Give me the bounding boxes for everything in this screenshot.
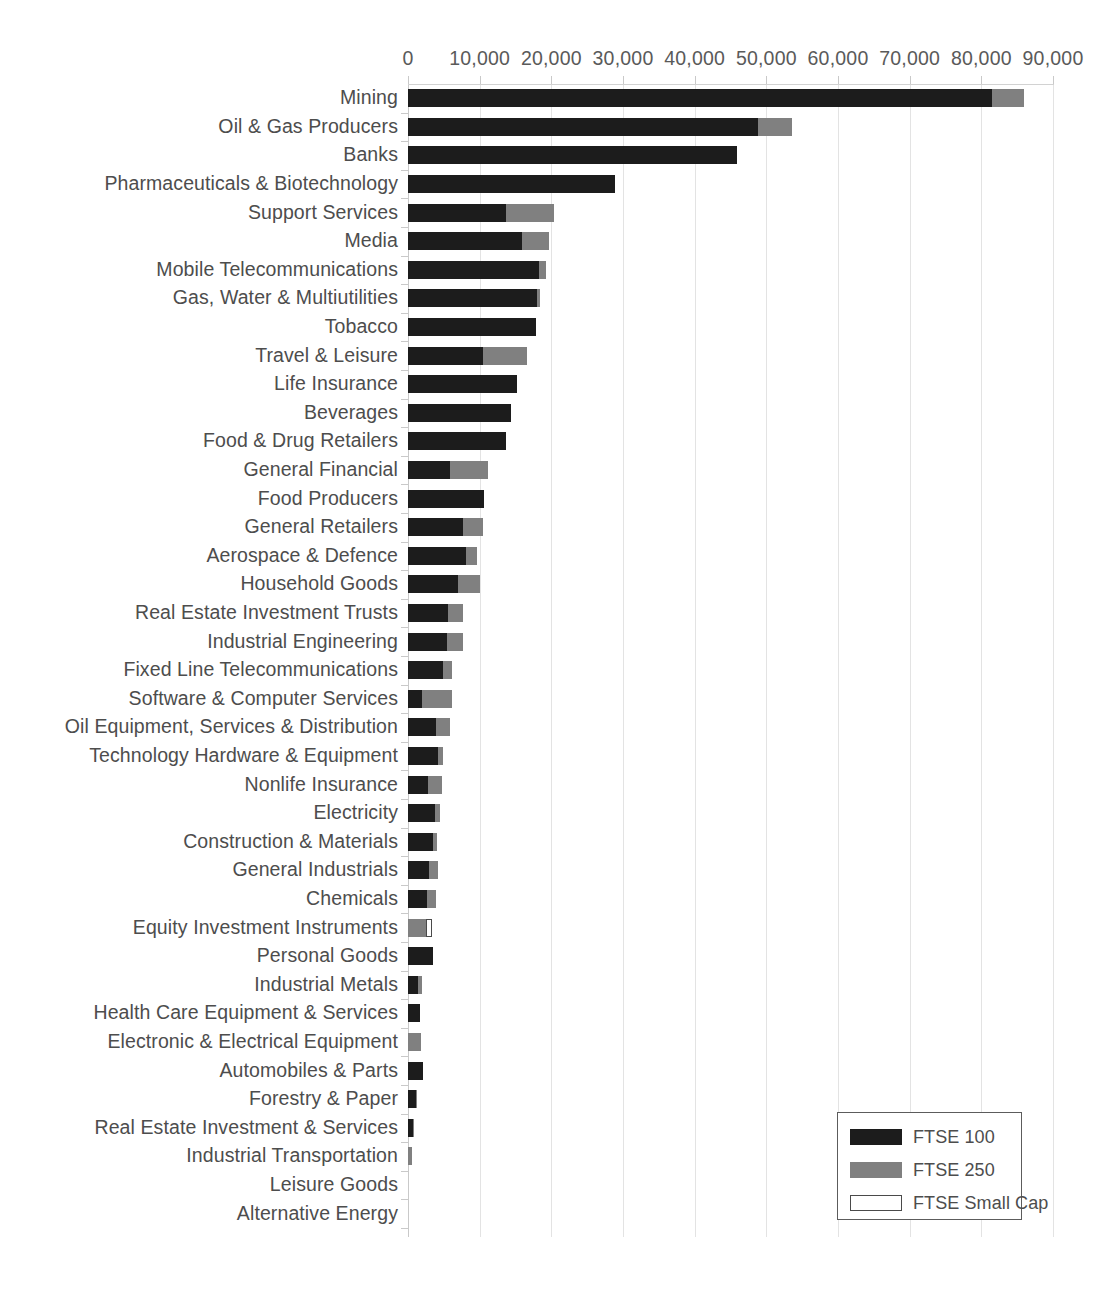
chart-row: Industrial Engineering	[0, 627, 1115, 656]
chart-row: Health Care Equipment & Services	[0, 999, 1115, 1028]
y-axis-category-label: Personal Goods	[257, 947, 398, 967]
y-axis-category-label: Food & Drug Retailers	[203, 432, 398, 452]
y-axis-category-label: Nonlife Insurance	[245, 775, 398, 795]
stacked-bar	[408, 947, 433, 965]
bar-segment-ftse-100	[408, 1090, 416, 1108]
bar-segment-ftse-250	[443, 661, 452, 679]
x-tick-mark	[766, 76, 767, 84]
bar-segment-ftse-100	[408, 547, 466, 565]
stacked-bar	[408, 175, 615, 193]
stacked-bar	[408, 232, 549, 250]
y-axis-category-label: Support Services	[248, 203, 398, 223]
stacked-bar	[408, 890, 436, 908]
bar-segment-ftse-250	[447, 633, 463, 651]
bar-segment-ftse-100	[408, 347, 483, 365]
bar-segment-ftse-100	[408, 261, 539, 279]
y-axis-category-label: Automobiles & Parts	[219, 1061, 398, 1081]
y-axis-category-label: General Financial	[243, 460, 398, 480]
y-axis-category-label: Construction & Materials	[183, 832, 398, 852]
bar-segment-ftse-250	[408, 1033, 421, 1051]
chart-row: General Retailers	[0, 513, 1115, 542]
stacked-bar	[408, 490, 484, 508]
chart-row: Aerospace & Defence	[0, 542, 1115, 571]
x-tick-mark	[981, 76, 982, 84]
stacked-bar	[408, 289, 540, 307]
stacked-bar	[408, 976, 422, 994]
bar-segment-ftse-100	[408, 861, 429, 879]
y-axis-category-label: Equity Investment Instruments	[133, 918, 398, 938]
stacked-bar	[408, 347, 527, 365]
bar-segment-ftse-250	[466, 547, 477, 565]
y-axis-category-label: Life Insurance	[274, 375, 398, 395]
chart-row: Chemicals	[0, 885, 1115, 914]
y-axis-category-label: Banks	[343, 146, 398, 166]
bar-segment-ftse-250	[435, 804, 440, 822]
stacked-bar	[408, 718, 450, 736]
y-axis-category-label: Industrial Transportation	[186, 1147, 398, 1167]
stacked-bar	[408, 461, 488, 479]
x-tick-mark	[838, 76, 839, 84]
chart-row: Electronic & Electrical Equipment	[0, 1028, 1115, 1057]
bar-segment-ftse-250	[433, 833, 437, 851]
chart-row: Electricity	[0, 799, 1115, 828]
legend-swatch-ftse-small-cap	[850, 1195, 902, 1211]
y-axis-category-label: Electricity	[313, 804, 398, 824]
legend-label: FTSE 100	[913, 1127, 995, 1148]
stacked-bar	[408, 1090, 417, 1108]
stacked-bar	[408, 1147, 412, 1165]
bar-segment-ftse-250	[758, 118, 792, 136]
bar-segment-ftse-100	[408, 404, 511, 422]
bar-segment-ftse-250	[448, 604, 463, 622]
x-axis-line	[408, 84, 1054, 85]
stacked-bar	[408, 833, 437, 851]
y-axis-category-label: Travel & Leisure	[255, 346, 398, 366]
bar-segment-ftse-250	[539, 261, 546, 279]
legend-item: FTSE Small Cap	[850, 1193, 1048, 1213]
chart-row: Tobacco	[0, 313, 1115, 342]
bar-segment-ftse-250	[416, 1090, 417, 1108]
bar-segment-ftse-250	[428, 776, 442, 794]
stacked-bar	[408, 776, 442, 794]
bar-segment-ftse-100	[408, 461, 450, 479]
stacked-bar	[408, 261, 546, 279]
stacked-bar	[408, 432, 506, 450]
bar-segment-ftse-250	[418, 976, 422, 994]
chart-row: Media	[0, 227, 1115, 256]
y-axis-category-label: Industrial Engineering	[207, 632, 398, 652]
bar-segment-ftse-250	[413, 1119, 414, 1137]
bar-segment-ftse-250	[408, 919, 426, 937]
stacked-bar	[408, 690, 452, 708]
bar-segment-ftse-250	[427, 890, 436, 908]
bar-segment-ftse-100	[408, 776, 428, 794]
bar-segment-ftse-100	[408, 804, 435, 822]
y-axis-category-label: Household Goods	[240, 575, 398, 595]
chart-row: Software & Computer Services	[0, 685, 1115, 714]
y-axis-category-label: Health Care Equipment & Services	[93, 1004, 398, 1024]
bar-segment-ftse-small-cap	[426, 919, 432, 937]
bar-segment-ftse-250	[450, 461, 488, 479]
bar-segment-ftse-100	[408, 146, 737, 164]
stacked-bar	[408, 747, 443, 765]
bar-segment-ftse-250	[463, 518, 483, 536]
stacked-bar	[408, 375, 517, 393]
legend-item: FTSE 100	[850, 1127, 995, 1147]
y-axis-category-label: Beverages	[304, 403, 398, 423]
bar-segment-ftse-100	[408, 890, 427, 908]
stacked-bar	[408, 575, 480, 593]
bar-segment-ftse-100	[408, 833, 433, 851]
bar-segment-ftse-100	[408, 718, 436, 736]
bar-segment-ftse-100	[408, 976, 418, 994]
x-tick-mark	[408, 76, 409, 84]
y-axis-category-label: Forestry & Paper	[249, 1090, 398, 1110]
bar-segment-ftse-250	[522, 232, 549, 250]
chart-row: Fixed Line Telecommunications	[0, 656, 1115, 685]
chart-row: Oil & Gas Producers	[0, 113, 1115, 142]
bar-segment-ftse-100	[408, 232, 522, 250]
stacked-bar	[408, 633, 463, 651]
bar-segment-ftse-100	[408, 1062, 423, 1080]
chart-row: Gas, Water & Multiutilities	[0, 284, 1115, 313]
bar-segment-ftse-100	[408, 747, 438, 765]
stacked-bar	[408, 204, 554, 222]
chart-row: Mobile Telecommunications	[0, 256, 1115, 285]
chart-row: Forestry & Paper	[0, 1085, 1115, 1114]
